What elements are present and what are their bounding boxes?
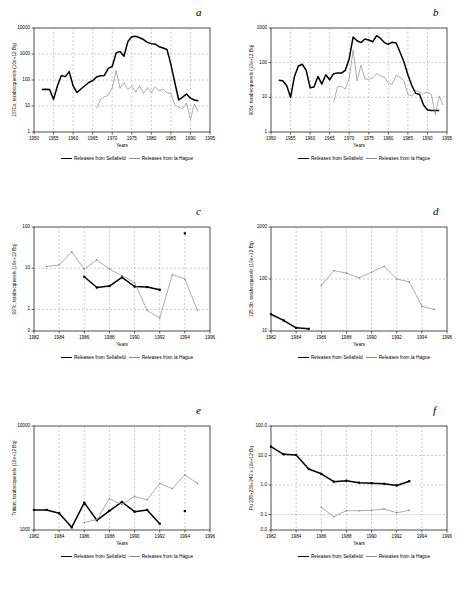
y-tick-label: 1.0 xyxy=(237,482,267,487)
y-tick-label: 10000 xyxy=(0,423,30,428)
data-point-marker xyxy=(121,504,122,505)
x-tick-label: 1982 xyxy=(22,534,46,539)
x-tick-label: 1988 xyxy=(334,335,358,340)
x-tick-label: 1994 xyxy=(173,534,197,539)
data-point-marker xyxy=(321,507,322,508)
x-tick-label: 1990 xyxy=(360,335,384,340)
chart-panel: c99Tc, terabecquerels (10e+12 Bq)0110100… xyxy=(0,199,237,399)
x-tick-label: 1986 xyxy=(72,534,96,539)
data-point-marker xyxy=(96,259,97,260)
x-axis-label: Years xyxy=(34,143,210,148)
data-point-marker xyxy=(408,480,410,482)
data-point-marker xyxy=(270,446,272,448)
chart-legend: Releases from SellafieldReleases from la… xyxy=(259,554,469,559)
legend-item-lahague: Releases from la Hague xyxy=(129,355,193,360)
legend-item-lahague: Releases from la Hague xyxy=(366,554,430,559)
data-point-marker xyxy=(133,511,135,513)
data-point-marker xyxy=(184,510,186,512)
y-tick-label: 100 xyxy=(0,224,30,229)
x-tick-label: 1986 xyxy=(309,335,333,340)
data-point-marker xyxy=(121,276,123,278)
data-point-marker xyxy=(134,282,135,283)
x-tick-label: 1994 xyxy=(173,335,197,340)
x-axis-label: Years xyxy=(34,541,210,546)
legend-item-sellafield: Releases from Sellafield xyxy=(61,156,126,161)
data-point-marker xyxy=(159,317,160,318)
x-tick-label: 1996 xyxy=(435,534,459,539)
data-point-marker xyxy=(346,510,347,511)
data-point-marker xyxy=(134,496,135,497)
chart-legend: Releases from SellafieldReleases from la… xyxy=(22,156,232,161)
chart-panel: d125 Sb, terabecquerels (10e+12 Bq)10100… xyxy=(237,199,474,399)
data-point-marker xyxy=(383,483,385,485)
data-point-marker xyxy=(84,522,85,523)
data-point-marker xyxy=(71,526,73,528)
data-point-marker xyxy=(184,278,185,279)
x-tick-label: 1996 xyxy=(435,335,459,340)
data-point-marker xyxy=(270,313,272,315)
data-point-marker xyxy=(346,272,347,273)
y-tick-label: 0 xyxy=(0,328,30,333)
x-tick-label: 1992 xyxy=(385,534,409,539)
y-tick-label: 10000 xyxy=(0,25,30,30)
data-point-marker xyxy=(295,454,297,456)
data-point-marker xyxy=(282,453,284,455)
y-tick-label: 1 xyxy=(0,129,30,134)
chart-panel: b90Sr, terabecquerels (10e+12 Bq)1101001… xyxy=(237,0,474,200)
chart-legend: Releases from SellafieldReleases from la… xyxy=(259,355,469,360)
data-point-marker xyxy=(45,509,47,511)
x-tick-label: 1984 xyxy=(284,335,308,340)
data-point-marker xyxy=(33,509,35,511)
legend-swatch-sellafield-icon xyxy=(61,158,72,159)
data-point-marker xyxy=(172,274,173,275)
data-point-marker xyxy=(421,305,422,306)
data-point-marker xyxy=(108,285,110,287)
x-tick-label: 1984 xyxy=(47,335,71,340)
data-point-marker xyxy=(146,509,148,511)
data-point-marker xyxy=(184,232,186,234)
data-point-marker xyxy=(83,276,85,278)
y-tick-label: 0.1 xyxy=(237,512,267,517)
data-point-marker xyxy=(84,268,85,269)
legend-swatch-lahague-icon xyxy=(366,357,377,358)
data-point-marker xyxy=(197,483,198,484)
data-point-marker xyxy=(146,310,147,311)
legend-label-lahague: Releases from la Hague xyxy=(142,554,193,559)
x-tick-label: 1986 xyxy=(309,534,333,539)
plot-area xyxy=(0,199,237,399)
data-point-marker xyxy=(46,266,47,267)
legend-item-sellafield: Releases from Sellafield xyxy=(61,355,126,360)
data-point-marker xyxy=(197,310,198,311)
data-point-marker xyxy=(159,483,160,484)
figure-root: a137Cs, terabecquerels (10e+12 Bq)110100… xyxy=(0,0,474,600)
x-axis-label: Years xyxy=(271,541,447,546)
data-point-marker xyxy=(409,510,410,511)
data-point-marker xyxy=(109,498,110,499)
x-axis-label: Years xyxy=(34,342,210,347)
data-point-marker xyxy=(409,281,410,282)
y-tick-label: 100.0 xyxy=(237,423,267,428)
data-point-marker xyxy=(121,275,122,276)
data-point-marker xyxy=(58,264,59,265)
chart-legend: Releases from SellafieldReleases from la… xyxy=(22,554,232,559)
legend-item-sellafield: Releases from Sellafield xyxy=(61,554,126,559)
y-tick-label: 1000 xyxy=(0,527,30,532)
chart-legend: Releases from SellafieldReleases from la… xyxy=(259,156,469,161)
data-point-marker xyxy=(71,251,72,252)
x-tick-label: 1992 xyxy=(148,335,172,340)
legend-item-lahague: Releases from la Hague xyxy=(366,156,430,161)
x-tick-label: 1990 xyxy=(123,335,147,340)
data-point-marker xyxy=(133,285,135,287)
data-point-marker xyxy=(345,480,347,482)
legend-swatch-lahague-icon xyxy=(366,556,377,557)
data-point-marker xyxy=(146,286,148,288)
y-tick-label: 10 xyxy=(237,328,267,333)
data-point-marker xyxy=(121,501,123,503)
chart-legend: Releases from SellafieldReleases from la… xyxy=(22,355,232,360)
legend-swatch-lahague-icon xyxy=(129,158,140,159)
data-point-marker xyxy=(159,523,161,525)
x-tick-label: 1984 xyxy=(47,534,71,539)
legend-item-lahague: Releases from la Hague xyxy=(366,355,430,360)
data-point-marker xyxy=(320,473,322,475)
y-tick-label: 1 xyxy=(237,129,267,134)
